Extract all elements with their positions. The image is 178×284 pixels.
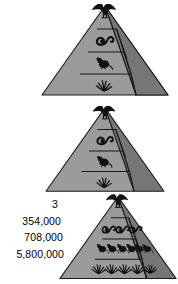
energy-pyramid-middle <box>40 106 170 194</box>
label-level-third: 708,000 <box>0 229 64 246</box>
energy-pyramid-bottom <box>58 192 178 284</box>
energy-pyramid-top <box>40 4 170 98</box>
label-level-bottom: 5,800,000 <box>0 246 64 263</box>
label-level-top: 3 <box>0 196 64 213</box>
label-level-second: 354,000 <box>0 213 64 230</box>
diagram-canvas: 3 354,000 708,000 5,800,000 <box>0 0 178 284</box>
population-labels: 3 354,000 708,000 5,800,000 <box>0 196 64 262</box>
